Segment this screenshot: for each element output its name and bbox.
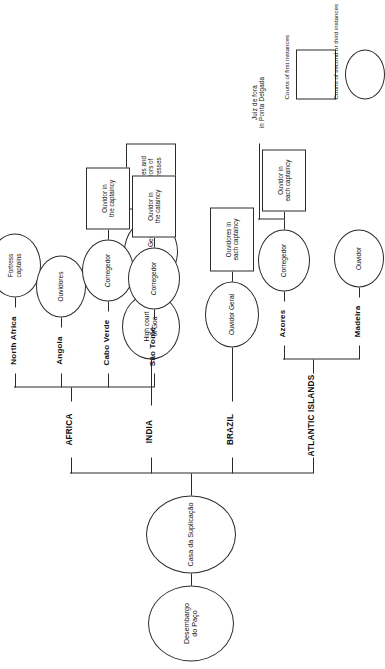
connector-atlantic-madeira	[359, 345, 360, 359]
node-azores-ouvidor-each-captaincy: Ouvidor in each captaincy	[262, 149, 306, 211]
connector-africa-angola	[61, 373, 62, 387]
connector-angola-to-ouvidores	[61, 317, 62, 327]
region-label-brazil: BRAZIL	[219, 401, 243, 457]
connector-north-africa-to-captains	[15, 297, 16, 307]
connector-azores-to-corregedor	[284, 291, 285, 301]
connector-root-to-casa	[191, 573, 192, 585]
connector-brazil-to-ouvidor-geral	[232, 347, 233, 401]
subregion-label-madeira: Madeira	[346, 297, 370, 345]
subregion-label-cabo-verde: Cabo Verde	[95, 311, 119, 373]
connector-brazil-ouvidor-geral-out	[232, 271, 233, 281]
node-azores-juiz-de-fora: Juiz de fora in Ponta Delgada	[242, 59, 274, 145]
connector-atlantic-azores	[284, 345, 285, 359]
legend-swatch-rect	[296, 49, 336, 99]
connector-atlantic-to-branch	[313, 359, 314, 373]
legend-label-first-instances: Courts of first instances	[283, 34, 290, 99]
subregion-label-angola: Angola	[48, 327, 72, 373]
node-brazil-ouvidores-each-captaincy: Ouvidores in each captaincy	[210, 207, 254, 271]
region-label-atlantic-islands: ATLANTIC ISLANDS	[300, 373, 324, 457]
node-sao-tome-ouvidor-captaincy: Ouvidor in the cataincy	[132, 175, 176, 237]
legend-label-higher-instances: Courts of second or third instances	[332, 3, 339, 99]
connector-azores-corregedor-out	[284, 219, 285, 229]
connector-spine-africa	[71, 457, 72, 473]
branch-atlantic-islands	[283, 358, 359, 359]
region-label-africa: AFRICA	[58, 401, 82, 457]
connector-africa-to-branch	[71, 387, 72, 401]
connector-spine-brazil	[232, 457, 233, 473]
node-desembargo-do-paco: Desembargo do Paço	[148, 585, 234, 661]
connector-africa-north-africa	[15, 373, 16, 387]
node-cabo-verde-ouvidor-captaincy: Ouvidor in the captaincy	[86, 167, 130, 229]
branch-africa	[14, 386, 154, 387]
connector-africa-sao-tome	[154, 373, 155, 387]
node-azores-corregedor: Corregedor	[258, 229, 310, 291]
spine-regions	[70, 472, 313, 473]
connector-cabo-verde-corregedor-out	[108, 229, 109, 239]
connector-azores-juiz-de-fora	[259, 143, 260, 219]
connector-africa-cabo-verde	[108, 373, 109, 387]
connector-spine-atlantic	[313, 457, 314, 473]
connector-spine-india	[151, 457, 152, 473]
subregion-label-north-africa: North Africa	[2, 307, 26, 373]
node-casa-da-suplicacao: Casa da Suplicação	[146, 495, 236, 573]
subregion-label-azores: Azores	[271, 301, 295, 345]
region-label-india: INDIA	[138, 405, 162, 457]
connector-casa-to-spine	[191, 473, 192, 495]
node-brazil-ouvidor-geral: Ouvidor Geral	[205, 281, 259, 347]
node-madeira-ouvidor: Ouvidor	[334, 229, 384, 287]
subregion-label-sao-tome: São Tomé	[141, 319, 165, 373]
node-cabo-verde-corregedor: Corregedor	[82, 239, 134, 301]
connector-azores-ouvidor-box	[284, 211, 285, 219]
branch-azores-children	[258, 218, 284, 219]
connector-cabo-verde-to-corregedor	[108, 301, 109, 311]
connector-madeira-to-ouvidor	[359, 287, 360, 297]
node-sao-tome-corregedor: Corregedor	[128, 247, 180, 309]
node-angola-ouvidores: Ouvidores	[36, 255, 86, 317]
node-north-africa-fortress-captains: Fortress captains	[0, 233, 41, 297]
legend-swatch-ellipse	[345, 49, 385, 99]
connector-sao-tome-to-corregedor	[154, 309, 155, 319]
connector-sao-tome-corregedor-out	[154, 237, 155, 247]
